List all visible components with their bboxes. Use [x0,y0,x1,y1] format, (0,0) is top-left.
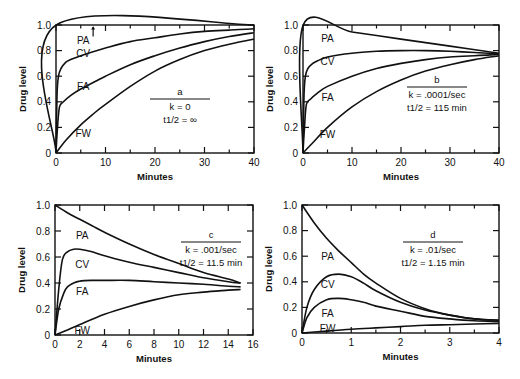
x-axis-label: Minutes [383,171,419,182]
y-tick-label: 1.0 [36,200,50,211]
y-tick-label: 0.2 [36,304,50,315]
rate-constant: k = .0001/sec [409,89,466,100]
panel-d-chart: 0123400.20.40.60.81.0MinutesDrug levelPA… [263,200,502,363]
x-tick-label: 8 [151,339,157,350]
plot-frame [55,205,253,335]
series-cv-label: CV [321,56,335,67]
y-tick-label: 0 [45,148,51,159]
y-tick-label: 1.0 [37,20,51,31]
y-tick-label: 1.0 [284,20,298,31]
x-tick-label: 40 [248,157,260,168]
x-tick-label: 0 [53,157,59,168]
x-tick-label: 1 [348,337,354,348]
panel-label: d [430,229,435,240]
y-tick-label: 0.4 [36,278,50,289]
series-cv-label: CV [321,279,335,290]
panel-a-chart: 01020304000.20.40.60.81.0MinutesDrug lev… [17,16,260,182]
y-tick-label: 0.4 [283,276,297,287]
x-tick-label: 10 [346,157,358,168]
x-tick-label: 10 [173,339,185,350]
series-cv-label: CV [75,259,89,270]
y-tick-label: 1.0 [283,200,297,211]
series-fw-label: FW [320,129,336,140]
series-pa-label: PA [77,35,90,46]
x-axis-label: Minutes [136,353,172,364]
figure: 01020304000.20.40.60.81.0MinutesDrug lev… [0,0,520,379]
series-fw-label: FW [320,323,336,334]
y-tick-label: 0 [291,328,297,339]
y-tick-label: 0.2 [37,122,51,133]
y-axis-label: Drug level [17,66,28,112]
x-tick-label: 3 [447,337,453,348]
x-tick-label: 12 [198,339,210,350]
x-tick-label: 30 [199,157,211,168]
x-tick-label: 0 [300,157,306,168]
y-tick-label: 0.6 [283,251,297,262]
x-tick-label: 2 [77,339,83,350]
rate-constant: k = .01/sec [410,244,456,255]
x-axis-label: Minutes [383,351,419,362]
x-axis-label: Minutes [137,171,173,182]
x-tick-label: 14 [223,339,235,350]
y-tick-label: 0.4 [37,96,51,107]
y-tick-label: 0 [44,330,50,341]
series-cv-label: CV [76,48,90,59]
panel-label: c [209,229,214,240]
x-tick-label: 20 [149,157,161,168]
series-fa-label: FA [321,92,334,103]
y-tick-label: 0.2 [284,122,298,133]
x-tick-label: 20 [395,157,407,168]
rate-constant: k = 0 [170,101,191,112]
x-tick-label: 4 [102,339,108,350]
y-axis-label: Drug level [16,247,27,293]
panel-label: b [434,74,439,85]
y-tick-label: 0.8 [283,225,297,236]
y-tick-label: 0.8 [37,45,51,56]
y-tick-label: 0.4 [284,96,298,107]
half-life: t1/2 = 1.15 min [401,257,464,268]
series-fa-label: FA [77,81,90,92]
y-axis-label: Drug level [263,246,274,292]
y-tick-label: 0 [292,148,298,159]
y-tick-label: 0.6 [284,71,298,82]
series-pa-label: PA [321,251,334,262]
x-tick-label: 0 [299,337,305,348]
x-tick-label: 30 [444,157,456,168]
series-fa-label: FA [76,286,89,297]
x-tick-label: 40 [493,157,505,168]
x-tick-label: 0 [52,339,58,350]
y-axis-label: Drug level [264,66,275,112]
y-tick-label: 0.6 [37,71,51,82]
x-tick-label: 16 [247,339,259,350]
half-life: t1/2 = 115 min [407,102,467,113]
series-pa-label: PA [321,33,334,44]
y-tick-label: 0.8 [284,45,298,56]
panel-c-chart: 024681012141600.20.40.60.81.0MinutesDrug… [16,200,259,365]
arrowhead-icon [91,26,95,29]
series-pa-label: PA [76,230,89,241]
rate-constant: k = .001/sec [185,244,237,255]
x-tick-label: 4 [496,337,502,348]
y-tick-label: 0.2 [283,302,297,313]
panel-label: a [177,86,183,97]
series-fw-label: FW [75,128,91,139]
series-fw-label: FW [74,325,90,336]
half-life: t1/2 = ∞ [163,114,197,125]
series-fa-label: FA [321,308,334,319]
x-tick-label: 6 [126,339,132,350]
y-tick-label: 0.8 [36,226,50,237]
y-tick-label: 0.6 [36,252,50,263]
x-tick-label: 2 [398,337,404,348]
half-life: t1/2 = 11.5 min [180,257,242,268]
x-tick-label: 10 [100,157,112,168]
panel-b-chart: 01020304000.20.40.60.81.0MinutesDrug lev… [264,17,505,182]
